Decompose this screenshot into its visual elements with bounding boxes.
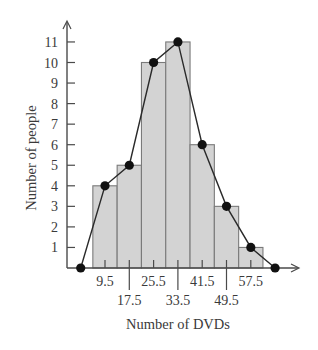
data-point (125, 161, 134, 170)
y-tick-label: 5 (51, 158, 58, 173)
histogram-bars (93, 42, 263, 268)
y-tick-label: 6 (51, 138, 58, 153)
y-tick-label: 8 (51, 97, 58, 112)
histogram-bar (117, 165, 141, 268)
data-point (173, 37, 182, 46)
y-tick-label: 10 (44, 56, 58, 71)
histogram-bar (141, 63, 165, 269)
y-tick-label: 11 (45, 35, 58, 50)
y-tick-label: 9 (51, 76, 58, 91)
data-point (198, 140, 207, 149)
y-tick-label: 7 (51, 117, 58, 132)
x-tick-label: 33.5 (166, 293, 191, 308)
y-ticks: 1234567891011 (44, 35, 75, 256)
x-axis-title: Number of DVDs (126, 316, 230, 332)
x-tick-label: 9.5 (96, 274, 114, 289)
y-tick-label: 1 (51, 240, 58, 255)
x-tick-label: 49.5 (214, 293, 239, 308)
histogram-chart: 1234567891011 9.525.541.557.517.533.549.… (0, 0, 318, 350)
data-point (149, 58, 158, 67)
data-point (222, 202, 231, 211)
data-point (271, 263, 280, 272)
x-tick-label: 41.5 (190, 274, 215, 289)
data-point (100, 181, 109, 190)
histogram-bar (93, 186, 117, 268)
y-tick-label: 3 (51, 199, 58, 214)
data-point (246, 243, 255, 252)
x-tick-label: 17.5 (117, 293, 142, 308)
y-tick-label: 4 (51, 179, 58, 194)
y-tick-label: 2 (51, 220, 58, 235)
x-tick-label: 57.5 (239, 274, 264, 289)
data-point (76, 263, 85, 272)
histogram-bar (214, 206, 238, 268)
y-axis-title: Number of people (23, 105, 39, 211)
x-tick-label: 25.5 (141, 274, 166, 289)
histogram-bar (190, 145, 214, 268)
